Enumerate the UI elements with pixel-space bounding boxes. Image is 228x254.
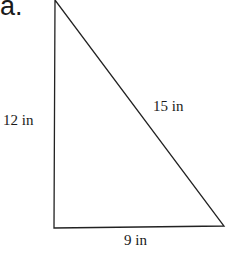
vertical-leg-label: 12 in bbox=[3, 112, 33, 129]
horizontal-leg-label: 9 in bbox=[124, 232, 147, 249]
triangle-outline bbox=[54, 0, 224, 228]
right-triangle bbox=[0, 0, 228, 254]
hypotenuse-label: 15 in bbox=[153, 98, 183, 115]
